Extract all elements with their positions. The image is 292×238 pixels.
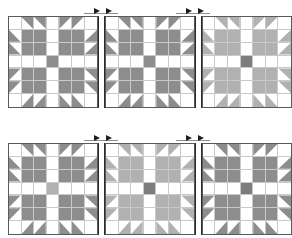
- patch-r0-c2: [131, 17, 144, 30]
- patch-r4-c1: [215, 195, 228, 208]
- patch-r5-c3: [47, 208, 60, 221]
- half-square-triangle: [106, 195, 118, 207]
- patch-r5-c6: [278, 208, 291, 221]
- patch-r2-c5: [169, 170, 182, 183]
- patch-fill: [47, 183, 59, 195]
- patch-r4-c5: [72, 68, 85, 81]
- half-square-triangle: [85, 43, 98, 55]
- patch-r1-c1: [22, 30, 35, 43]
- quilt-assembly-diagram: [0, 0, 292, 238]
- patch-r6-c5: [266, 221, 279, 234]
- patch-r1-c3: [144, 30, 157, 43]
- patch-r0-c1: [119, 144, 132, 157]
- patch-r5-c1: [119, 208, 132, 221]
- patch-fill: [22, 157, 34, 169]
- block-r1-c3[interactable]: [202, 16, 292, 108]
- patch-r6-c5: [72, 94, 85, 107]
- patch-r3-c6: [278, 183, 291, 196]
- patch-fill: [228, 195, 240, 207]
- patch-r4-c4: [253, 195, 266, 208]
- half-square-triangle: [156, 17, 168, 29]
- patch-r2-c4: [59, 170, 72, 183]
- patch-r6-c3: [47, 94, 60, 107]
- patch-r2-c1: [215, 43, 228, 56]
- patch-fill: [266, 43, 278, 55]
- half-square-triangle: [9, 68, 21, 80]
- patch-r3-c0: [9, 183, 22, 196]
- patch-fill: [156, 195, 168, 207]
- patch-r3-c6: [85, 183, 98, 196]
- patch-r2-c4: [156, 170, 169, 183]
- patch-r1-c0: [106, 157, 119, 170]
- row-2: [0, 143, 292, 235]
- patch-fill: [215, 68, 227, 80]
- half-square-triangle: [181, 43, 194, 55]
- patch-r1-c1: [215, 157, 228, 170]
- patch-r2-c1: [215, 170, 228, 183]
- seam-direction-arrow-icon-2: [198, 8, 204, 14]
- block-r2-c2[interactable]: [105, 143, 195, 235]
- half-square-triangle: [72, 221, 84, 234]
- patch-r3-c0: [203, 183, 216, 196]
- seam-rule: [176, 13, 210, 14]
- seam-marker-r2-2: [176, 129, 210, 143]
- patch-r3-c1: [215, 183, 228, 196]
- patch-r2-c6: [181, 170, 194, 183]
- patch-r1-c0: [9, 30, 22, 43]
- patch-r6-c4: [59, 221, 72, 234]
- block-join-seam: [98, 143, 105, 235]
- patch-fill: [215, 208, 227, 220]
- patch-r6-c2: [34, 221, 47, 234]
- block-r1-c2[interactable]: [105, 16, 195, 108]
- patch-r0-c3: [241, 144, 254, 157]
- patch-r5-c3: [144, 208, 157, 221]
- patch-fill: [241, 56, 253, 68]
- patch-r5-c1: [22, 81, 35, 94]
- patch-r5-c0: [203, 81, 216, 94]
- seam-direction-arrow-icon-1: [186, 135, 192, 141]
- patch-fill: [215, 43, 227, 55]
- patch-r1-c3: [241, 157, 254, 170]
- patch-fill: [72, 43, 84, 55]
- patch-fill: [253, 81, 265, 93]
- patch-r3-c6: [181, 56, 194, 69]
- row-1-blocks: [8, 16, 292, 108]
- block-r2-c3[interactable]: [202, 143, 292, 235]
- patch-r3-c1: [215, 56, 228, 69]
- patch-r5-c2: [34, 208, 47, 221]
- patch-r6-c3: [241, 221, 254, 234]
- patch-r2-c1: [22, 170, 35, 183]
- patch-r1-c2: [228, 157, 241, 170]
- patch-fill: [131, 43, 143, 55]
- patch-r6-c1: [215, 221, 228, 234]
- block-r2-c1[interactable]: [8, 143, 98, 235]
- half-square-triangle: [59, 17, 71, 29]
- patch-fill: [144, 183, 156, 195]
- patch-r3-c5: [72, 56, 85, 69]
- patch-r0-c1: [119, 17, 132, 30]
- block-r1-c1[interactable]: [8, 16, 98, 108]
- seam-direction-arrow-icon-1: [94, 8, 100, 14]
- patch-r2-c5: [169, 43, 182, 56]
- patch-r1-c3: [47, 30, 60, 43]
- patch-r4-c4: [156, 68, 169, 81]
- half-square-triangle: [169, 144, 181, 156]
- patch-r4-c0: [9, 195, 22, 208]
- patch-r1-c4: [59, 157, 72, 170]
- patch-fill: [34, 30, 46, 42]
- patch-r4-c4: [253, 68, 266, 81]
- patch-r0-c5: [169, 144, 182, 157]
- patch-fill: [131, 208, 143, 220]
- half-square-triangle: [203, 68, 215, 80]
- half-square-triangle: [203, 170, 215, 182]
- patch-fill: [131, 68, 143, 80]
- join-line-left: [98, 16, 99, 108]
- half-square-triangle: [85, 170, 98, 182]
- patch-r3-c5: [72, 183, 85, 196]
- half-square-triangle: [119, 94, 131, 107]
- patch-r6-c5: [266, 94, 279, 107]
- patch-r6-c0: [203, 221, 216, 234]
- half-square-triangle: [85, 30, 98, 42]
- patch-r4-c6: [85, 195, 98, 208]
- patch-r5-c4: [156, 81, 169, 94]
